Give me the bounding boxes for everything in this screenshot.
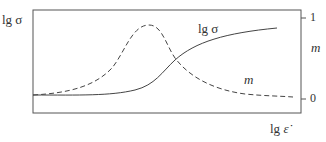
- tick-label-0: 0: [310, 91, 316, 106]
- curve-m: [33, 25, 293, 97]
- y-axis-left-label: lg σ: [2, 12, 22, 28]
- curve-lg-sigma: [33, 28, 277, 95]
- plot-frame: [33, 10, 301, 113]
- curve-label-m: m: [244, 72, 253, 88]
- chart: lg σ m 1 0 lg ε̇ lg σ m: [0, 0, 326, 142]
- x-axis-label: lg ε̇: [270, 121, 289, 137]
- tick-label-1: 1: [310, 10, 316, 25]
- y-axis-right-label: m: [311, 40, 320, 56]
- curve-label-lg-sigma: lg σ: [198, 21, 218, 37]
